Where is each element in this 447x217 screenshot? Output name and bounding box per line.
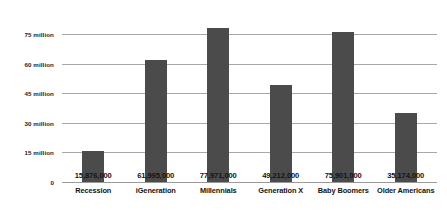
bar[interactable] — [270, 85, 292, 182]
x-axis-tick-label: iGeneration — [136, 186, 176, 195]
x-axis-tick-label: Recession — [75, 186, 111, 195]
x-axis-tick-label: Generation X — [258, 186, 303, 195]
x-axis-tick-label: Millennials — [200, 186, 237, 195]
y-axis: 015 million30 million45 million60 millio… — [0, 10, 58, 182]
x-axis-tick-label: Older Americans — [377, 186, 434, 195]
y-axis-tick-label: 45 million — [24, 90, 54, 97]
gridline — [62, 93, 437, 94]
gridline — [62, 123, 437, 124]
bar-value-label: 35,174,000 — [387, 171, 424, 180]
plot-area: 15,876,00061,995,00077,971,00049,212,000… — [62, 10, 437, 182]
bar-chart: 015 million30 million45 million60 millio… — [0, 0, 447, 217]
y-axis-tick-label: 15 million — [24, 149, 54, 156]
x-axis: RecessioniGenerationMillennialsGeneratio… — [62, 186, 437, 200]
x-axis-tick-label: Baby Boomers — [318, 186, 369, 195]
gridline — [62, 182, 437, 183]
bar-value-label: 75,901,000 — [325, 171, 362, 180]
bar-value-label: 77,971,000 — [200, 171, 237, 180]
y-axis-tick-label: 75 million — [24, 31, 54, 38]
gridline — [62, 152, 437, 153]
bar[interactable] — [145, 60, 167, 182]
y-axis-tick-label: 60 million — [24, 60, 54, 67]
y-axis-tick-label: 30 million — [24, 119, 54, 126]
y-axis-tick-label: 0 — [50, 179, 54, 186]
bar-value-label: 15,876,000 — [75, 171, 112, 180]
bar[interactable] — [207, 28, 229, 182]
bar[interactable] — [332, 32, 354, 182]
bar-value-label: 49,212,000 — [262, 171, 299, 180]
bar-value-label: 61,995,000 — [137, 171, 174, 180]
gridline — [62, 34, 437, 35]
gridline — [62, 64, 437, 65]
